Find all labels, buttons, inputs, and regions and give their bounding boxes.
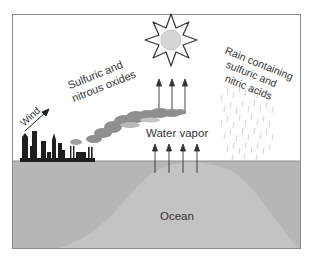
ocean-label: Ocean xyxy=(160,210,194,222)
sun-icon xyxy=(145,14,197,66)
acid-rain-diagram: Wind Sulfuric and nitrous oxides Rain co… xyxy=(0,0,314,260)
city-skyline-icon xyxy=(20,131,95,162)
ocean-area xyxy=(13,161,300,248)
water-vapor-label: Water vapor xyxy=(146,127,208,139)
